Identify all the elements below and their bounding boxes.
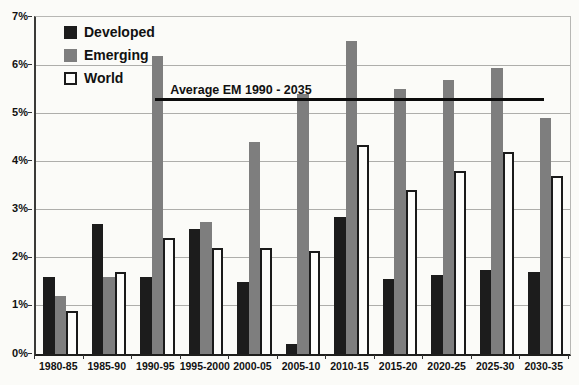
x-axis-tick: [471, 355, 472, 359]
x-axis-tick-label: 1985-90: [83, 360, 132, 372]
y-axis-tick: [28, 112, 32, 113]
average-line: [155, 98, 543, 101]
y-axis-tick-label: 4%: [2, 155, 28, 166]
bar-developed-1995-2000: [189, 229, 201, 354]
x-axis-tick-label: 2015-20: [374, 360, 423, 372]
y-axis-tick: [28, 305, 32, 306]
x-axis-tick: [180, 355, 181, 359]
y-axis-tick: [28, 16, 32, 17]
x-axis-tick: [228, 355, 229, 359]
legend-item-emerging: Emerging: [64, 48, 155, 62]
x-axis-tick-label: 2030-35: [519, 360, 568, 372]
bar-world-2025-30: [503, 152, 515, 354]
x-axis-tick-label: 2020-25: [422, 360, 471, 372]
y-axis-tick: [28, 353, 32, 354]
legend-label: World: [84, 71, 123, 85]
bar-emerging-1985-90: [103, 277, 115, 354]
y-axis-tick-label: 2%: [2, 251, 28, 262]
bar-emerging-1980-85: [55, 296, 67, 354]
bar-developed-2030-35: [528, 272, 540, 354]
y-axis-tick-label: 1%: [2, 299, 28, 310]
x-axis-tick-label: 2000-05: [228, 360, 277, 372]
bar-developed-2015-20: [383, 279, 395, 354]
x-axis-tick: [519, 355, 520, 359]
bar-world-2005-10: [309, 251, 321, 355]
bar-developed-2025-30: [480, 270, 492, 354]
bar-developed-2000-05: [237, 282, 249, 354]
bar-emerging-2000-05: [249, 142, 261, 354]
y-axis-tick-label: 0%: [2, 348, 28, 359]
bar-world-2010-15: [357, 145, 369, 354]
y-axis-tick: [28, 257, 32, 258]
x-axis-tick-label: 1995-2000: [180, 360, 229, 372]
y-axis-tick: [28, 64, 32, 65]
bar-emerging-2010-15: [346, 41, 358, 354]
x-axis-tick: [83, 355, 84, 359]
bar-world-2020-25: [454, 171, 466, 354]
legend-label: Developed: [84, 25, 155, 39]
y-axis-tick-label: 5%: [2, 107, 28, 118]
bar-developed-2005-10: [286, 344, 298, 354]
bar-emerging-2015-20: [394, 89, 406, 354]
legend-swatch-icon: [64, 26, 77, 39]
bar-world-1990-95: [163, 238, 175, 354]
x-axis-tick-label: 2025-30: [471, 360, 520, 372]
bar-developed-1985-90: [92, 224, 104, 354]
bar-emerging-2025-30: [491, 68, 503, 354]
legend-swatch-icon: [64, 49, 77, 62]
bar-developed-2020-25: [431, 275, 443, 354]
bar-developed-1990-95: [140, 277, 152, 354]
x-axis-tick-label: 1980-85: [34, 360, 83, 372]
y-axis-tick-label: 3%: [2, 203, 28, 214]
y-axis-tick-label: 7%: [2, 11, 28, 22]
x-axis-tick: [374, 355, 375, 359]
bar-emerging-1995-2000: [200, 222, 212, 354]
legend: DevelopedEmergingWorld: [64, 25, 155, 85]
legend-label: Emerging: [84, 48, 149, 62]
legend-swatch-icon: [64, 72, 77, 85]
x-axis-tick: [325, 355, 326, 359]
bar-emerging-2005-10: [297, 94, 309, 354]
bar-world-1995-2000: [212, 248, 224, 354]
bar-developed-2010-15: [334, 217, 346, 354]
x-axis-tick-label: 2005-10: [277, 360, 326, 372]
chart: DevelopedEmergingWorld Average EM 1990 -…: [0, 0, 579, 385]
y-axis-tick: [28, 209, 32, 210]
y-axis-tick: [28, 160, 32, 161]
bar-world-1980-85: [66, 311, 78, 354]
x-axis-tick-label: 1990-95: [131, 360, 180, 372]
bar-world-1985-90: [115, 272, 127, 354]
x-axis-tick: [568, 355, 569, 359]
x-axis-tick: [422, 355, 423, 359]
bar-world-2030-35: [551, 176, 563, 354]
bar-emerging-2020-25: [443, 80, 455, 354]
bar-developed-1980-85: [43, 277, 55, 354]
x-axis-tick-label: 2010-15: [325, 360, 374, 372]
x-axis-tick: [131, 355, 132, 359]
x-axis-tick: [34, 355, 35, 359]
y-axis-tick-label: 6%: [2, 59, 28, 70]
bar-emerging-2030-35: [540, 118, 552, 354]
legend-item-developed: Developed: [64, 25, 155, 39]
legend-item-world: World: [64, 71, 155, 85]
bar-world-2000-05: [260, 248, 272, 354]
average-line-label: Average EM 1990 - 2035: [170, 83, 311, 97]
x-axis-tick: [277, 355, 278, 359]
bar-world-2015-20: [406, 190, 418, 354]
